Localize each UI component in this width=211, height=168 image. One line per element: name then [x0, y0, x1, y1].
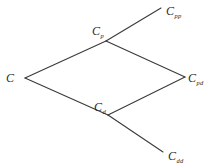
node-subscript-cpp: pp	[175, 12, 182, 19]
node-label-cpp: Cpp	[166, 2, 181, 18]
node-subscript-cdd: dd	[177, 157, 184, 164]
edge-cd-to-cdd	[108, 115, 163, 152]
node-base-cd: C	[94, 100, 102, 114]
node-base-c: C	[6, 71, 14, 85]
node-subscript-cd: d	[103, 108, 106, 115]
edge-c-to-cp	[25, 41, 106, 78]
edge-cp-to-cpp	[106, 8, 161, 41]
node-label-c: C	[6, 69, 14, 85]
node-base-cp: C	[92, 24, 100, 38]
node-label-cdd: Cdd	[168, 147, 183, 163]
node-subscript-cp: p	[101, 32, 104, 39]
tree-edges-canvas	[0, 0, 211, 168]
node-base-cpp: C	[166, 4, 174, 18]
edge-cp-to-cpd	[106, 41, 185, 77]
binomial-tree-diagram: C Cp Cd Cpp Cpd Cdd	[0, 0, 211, 168]
node-label-cd: Cd	[94, 98, 105, 114]
node-base-cdd: C	[168, 149, 176, 163]
edge-cd-to-cpd	[108, 77, 185, 115]
node-base-cpd: C	[188, 71, 196, 85]
node-label-cpd: Cpd	[188, 69, 203, 85]
node-subscript-cpd: pd	[197, 79, 204, 86]
node-label-cp: Cp	[92, 22, 103, 38]
